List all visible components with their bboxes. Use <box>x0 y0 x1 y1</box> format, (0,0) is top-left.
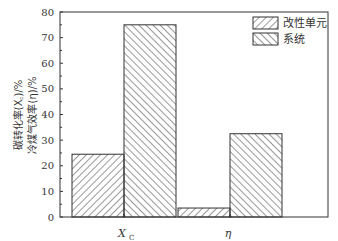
y-axis-label: 碳转化率(X꜀)/%冷煤气效率(η)/% <box>12 76 38 153</box>
bar-1-1 <box>230 134 282 217</box>
y-tick-label: 80 <box>41 7 54 18</box>
y-tick-label: 50 <box>41 83 54 94</box>
y-tick-label: 10 <box>41 186 54 197</box>
x-tick-subscript: C <box>129 234 134 241</box>
y-tick-label: 60 <box>41 58 54 69</box>
y-tick-label: 20 <box>41 160 54 171</box>
x-axis: XCη <box>117 214 232 241</box>
bar-0-0 <box>72 154 124 217</box>
x-tick-label: η <box>225 227 232 240</box>
y-tick-label: 70 <box>41 32 54 43</box>
x-tick-label: X <box>117 227 127 240</box>
legend-label: 改性单元 <box>283 16 327 30</box>
bar-1-0 <box>124 25 176 217</box>
legend-swatch <box>253 17 278 29</box>
y-tick-label: 0 <box>48 212 54 223</box>
legend-label: 系统 <box>283 33 305 46</box>
y-axis-label-line2: 冷煤气效率(η)/% <box>26 76 38 153</box>
legend-swatch <box>253 33 278 45</box>
y-tick-label: 40 <box>41 109 54 120</box>
bar-0-1 <box>178 208 230 217</box>
bar-chart: 01020304050607080 XCη 改性单元系统 碳转化率(X꜀)/%冷… <box>0 0 338 241</box>
y-tick-label: 30 <box>41 135 54 146</box>
y-axis-label-line1: 碳转化率(X꜀)/% <box>12 80 24 151</box>
legend: 改性单元系统 <box>253 16 327 46</box>
bars <box>72 25 282 217</box>
